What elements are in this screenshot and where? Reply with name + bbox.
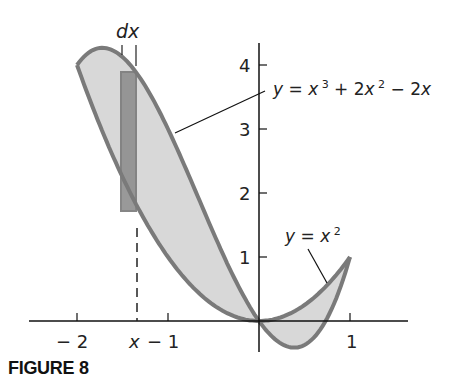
parabola-leader-line	[308, 249, 327, 283]
y-tick-label: 4	[239, 55, 250, 76]
parabola-equation-label: y = x 2	[284, 225, 341, 246]
cubic-leader-line	[175, 91, 265, 133]
y-tick-label: 2	[239, 183, 250, 204]
cubic-equation-label: y = x 3 + 2x 2 − 2x	[272, 78, 432, 99]
area-between-curves-diagram: − 2− 11 1234 dx x y = x 3 + 2x 2 − 2x y …	[0, 0, 455, 386]
y-tick-label: 1	[239, 247, 250, 268]
x-marker-label: x	[128, 331, 140, 352]
y-ticks: 1234	[239, 55, 267, 268]
x-tick-label: − 2	[56, 331, 88, 352]
figure-caption: FIGURE 8	[8, 358, 89, 379]
x-tick-label: − 1	[147, 331, 179, 352]
dx-label: dx	[116, 20, 140, 42]
y-tick-label: 3	[239, 119, 250, 140]
x-tick-label: 1	[346, 331, 357, 352]
